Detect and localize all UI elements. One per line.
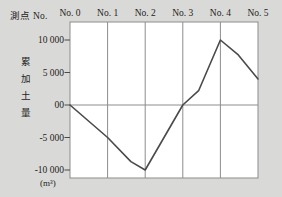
y-axis-ticks	[65, 40, 71, 170]
plot-canvas	[0, 0, 282, 197]
plot-area-frame	[70, 22, 258, 178]
mass-haul-diagram-figure: 測点 No. No. 0 No. 1 No. 2 No. 3 No. 4 No.…	[0, 0, 282, 197]
